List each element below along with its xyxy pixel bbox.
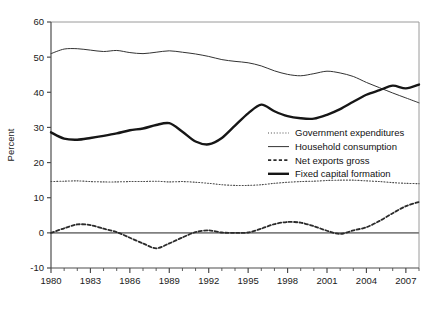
y-axis-tick-label: 20 — [33, 157, 44, 168]
y-axis-tick-label: -10 — [30, 262, 44, 273]
chart-figure: 6050403020100-10 19801983198619891992199… — [0, 0, 434, 309]
y-axis-tick-label: 40 — [33, 87, 44, 98]
x-axis-tick-label: 1995 — [238, 275, 259, 286]
line-chart: 6050403020100-10 19801983198619891992199… — [0, 0, 434, 309]
y-axis-tick-label: 60 — [33, 16, 44, 27]
chart-legend: Government expendituresHousehold consump… — [268, 127, 405, 179]
legend-entry-label: Household consumption — [295, 141, 397, 152]
y-axis-title-text: Percent — [5, 128, 16, 161]
y-axis: 6050403020100-10 — [30, 16, 51, 273]
y-axis-tick-label: 50 — [33, 52, 44, 63]
series-line — [51, 202, 419, 248]
y-axis-title: Percent — [5, 128, 16, 161]
x-axis: 1980198319861989199219951998200120042007 — [40, 268, 419, 286]
x-axis-tick-label: 2004 — [356, 275, 377, 286]
series-line — [51, 180, 419, 185]
legend-entry-label: Government expenditures — [295, 127, 405, 138]
x-axis-tick-label: 1980 — [40, 275, 61, 286]
legend-entry-label: Net exports gross — [295, 155, 370, 166]
x-axis-tick-label: 1986 — [119, 275, 140, 286]
x-axis-tick-label: 1989 — [159, 275, 180, 286]
x-axis-tick-label: 1998 — [277, 275, 298, 286]
x-axis-tick-label: 2001 — [316, 275, 337, 286]
legend-entry-label: Fixed capital formation — [295, 168, 391, 179]
y-axis-tick-label: 0 — [39, 227, 44, 238]
y-axis-tick-label: 30 — [33, 122, 44, 133]
x-axis-tick-label: 1992 — [198, 275, 219, 286]
x-axis-tick-label: 1983 — [80, 275, 101, 286]
y-axis-tick-label: 10 — [33, 192, 44, 203]
x-axis-tick-label: 2007 — [395, 275, 416, 286]
